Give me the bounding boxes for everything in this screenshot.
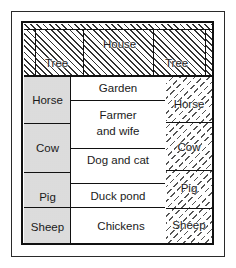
- left-cow-label: Cow: [36, 141, 59, 155]
- duck-pond-label: Duck pond: [91, 189, 146, 203]
- right-pig-label: Pig: [181, 181, 198, 195]
- left-sheep-label: Sheep: [31, 220, 64, 234]
- tree-left-cell: Tree: [36, 30, 84, 76]
- dog-and-cat-label: Dog and cat: [87, 153, 149, 167]
- house-cell: House: [84, 30, 154, 76]
- duck-pond: Duck pond: [71, 184, 165, 208]
- garden-plot: Garden: [71, 77, 165, 101]
- left-horse-paddock: Horse: [24, 77, 71, 124]
- right-horse-paddock: Horse: [166, 77, 212, 123]
- right-cow-paddock: Cow: [166, 123, 212, 171]
- left-horse-label: Horse: [32, 93, 63, 107]
- chickens-label: Chickens: [97, 219, 144, 233]
- farmhouse-farmer-and-wife: Farmer and wife: [71, 101, 165, 149]
- right-cow-label: Cow: [177, 140, 200, 154]
- left-cow-paddock: Cow: [24, 124, 71, 173]
- left-pig-pen: Pig: [24, 173, 71, 208]
- right-sheep-pen: Sheep: [166, 209, 212, 243]
- left-pig-label: Pig: [39, 190, 56, 204]
- tree-left-label: Tree: [44, 57, 69, 69]
- right-border-strip: [205, 30, 212, 76]
- chicken-run: Chickens: [71, 208, 165, 243]
- tree-right-cell: Tree: [154, 30, 205, 76]
- dog-and-cat-area: Dog and cat: [71, 149, 165, 184]
- farmer-label-line1: Farmer: [99, 108, 136, 122]
- tree-right-label: Tree: [164, 57, 189, 69]
- farmer-label-line2: and wife: [97, 124, 140, 138]
- left-sheep-pen: Sheep: [24, 208, 71, 243]
- right-pig-pen: Pig: [166, 171, 212, 209]
- right-sheep-label: Sheep: [172, 218, 205, 232]
- house-label: House: [102, 38, 137, 50]
- left-border-strip: [24, 30, 36, 76]
- right-horse-label: Horse: [174, 97, 205, 111]
- garden-label: Garden: [99, 81, 137, 95]
